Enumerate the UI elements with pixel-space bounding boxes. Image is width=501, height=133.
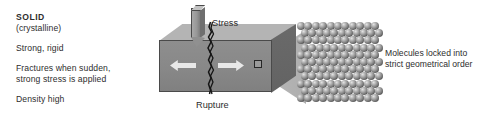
zoom-region-marker (254, 60, 262, 68)
solid-description-text: SOLID (crystalline) Strong, rigid Fractu… (16, 12, 152, 105)
property-density-high: Density high (16, 94, 152, 105)
solid-title: SOLID (16, 12, 152, 23)
wedge-tip (191, 37, 205, 47)
lattice-caption-line1: Molecules locked into (385, 48, 497, 59)
solid-subtitle: (crystalline) (16, 23, 152, 34)
molecule (371, 94, 379, 102)
crystal-lattice (297, 22, 389, 114)
lattice-caption: Molecules locked into strict geometrical… (385, 48, 497, 70)
lattice-row (297, 94, 378, 102)
property-fractures-line1: Fractures when sudden, (16, 63, 152, 74)
wedge-front-face (191, 8, 201, 38)
lattice-caption-line2: strict geometrical order (385, 59, 497, 70)
stress-wedge-icon (191, 8, 205, 46)
rupture-label: Rupture (196, 100, 229, 110)
rupture-crack-icon (204, 22, 218, 94)
wedge-side-face (200, 7, 205, 38)
stress-label: Stress (212, 18, 238, 28)
property-strong-rigid: Strong, rigid (16, 43, 152, 54)
solid-state-diagram: SOLID (crystalline) Strong, rigid Fractu… (0, 0, 501, 133)
property-fractures-line2: strong stress is applied (16, 74, 152, 85)
